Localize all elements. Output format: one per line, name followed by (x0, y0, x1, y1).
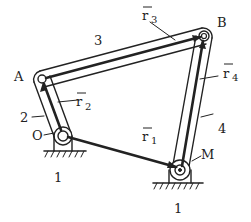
joint-m-support (153, 160, 203, 189)
label-joint-m: M (201, 147, 214, 162)
linkage-diagram: 3 A B 2 O 1 4 M 1 r 3 r 4 r 2 r 1 (0, 0, 251, 222)
svg-text:2: 2 (85, 101, 91, 112)
label-r4: r 4 (223, 64, 238, 83)
label-joint-o: O (32, 128, 43, 143)
svg-text:r: r (142, 129, 149, 144)
joint-a (38, 75, 46, 83)
leader-r4 (200, 76, 218, 79)
label-link-2: 2 (20, 110, 28, 125)
label-ground-right: 1 (174, 201, 182, 216)
label-r1: r 1 (142, 128, 157, 146)
leader-2 (32, 116, 44, 117)
vector-r3 (46, 35, 202, 78)
label-link-3: 3 (94, 33, 102, 48)
leader-m (192, 156, 201, 161)
joint-o-support (44, 127, 86, 157)
label-joint-a: A (13, 69, 24, 84)
vector-r1 (68, 137, 178, 168)
svg-text:4: 4 (232, 72, 238, 83)
svg-text:1: 1 (151, 135, 157, 146)
svg-text:r: r (142, 8, 149, 23)
leader-4 (201, 114, 213, 117)
svg-text:r: r (76, 94, 83, 109)
label-r2: r 2 (76, 93, 91, 112)
label-joint-b: B (217, 15, 227, 30)
label-link-4: 4 (218, 121, 226, 136)
label-ground-left: 1 (54, 170, 62, 185)
leader-r2 (58, 100, 78, 102)
svg-text:r: r (223, 66, 230, 81)
svg-text:3: 3 (151, 14, 157, 25)
